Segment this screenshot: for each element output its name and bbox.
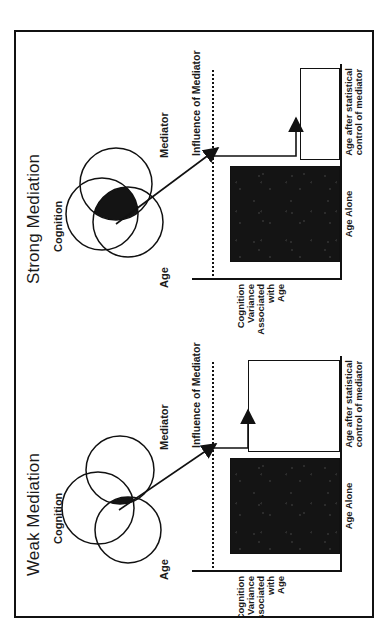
bar-caption-age-controlled-strong: Age after statistical control of mediato… xyxy=(344,60,364,164)
rotated-figure-canvas: Weak Mediation xyxy=(16,32,372,616)
bar-chart-weak: Age Alone Age after statistical control … xyxy=(192,350,360,572)
y-axis-weak xyxy=(192,570,342,572)
venn-label-age-strong: Age xyxy=(158,267,170,288)
bar-chart-strong: Age Alone Age after statistical control … xyxy=(192,58,360,280)
panel-title-strong: Strong Mediation xyxy=(24,154,44,284)
x-axis-weak xyxy=(340,356,342,572)
y-axis-strong xyxy=(192,278,342,280)
reference-line-weak xyxy=(212,362,214,572)
venn-label-age-weak: Age xyxy=(158,559,170,580)
venn-label-mediator-strong: Mediator xyxy=(158,112,170,158)
panel-title-weak: Weak Mediation xyxy=(24,453,44,576)
bar-texture xyxy=(231,167,339,261)
venn-svg-weak xyxy=(54,370,180,580)
y-axis-caption-weak: Cognition Variance Associated with Age xyxy=(236,576,286,618)
reference-line-strong xyxy=(212,70,214,280)
venn-label-cognition-strong: Cognition xyxy=(52,201,64,252)
venn-label-mediator-weak: Mediator xyxy=(158,404,170,450)
y-axis-caption-strong: Cognition Variance Associated with Age xyxy=(236,284,286,336)
bar-age-alone-weak xyxy=(230,458,340,554)
panel-strong-mediation: Strong Mediation xyxy=(16,32,372,324)
scanned-page: Weak Mediation xyxy=(0,0,392,644)
influence-of-mediator-label-weak: Influence of Mediator xyxy=(190,342,202,448)
influence-of-mediator-label-strong: Influence of Mediator xyxy=(190,50,202,156)
bar-caption-age-alone-weak: Age Alone xyxy=(344,458,354,554)
bar-age-alone-strong xyxy=(230,166,340,262)
figure-border: Weak Mediation xyxy=(14,30,374,618)
panel-weak-mediation: Weak Mediation xyxy=(16,324,372,616)
mediator-influence-arrow-strong xyxy=(208,102,304,162)
bar-caption-age-alone-strong: Age Alone xyxy=(344,166,354,262)
bar-caption-age-controlled-weak: Age after statistical control of mediato… xyxy=(344,352,364,456)
bar-age-controlled-weak xyxy=(248,360,340,452)
bar-age-controlled-strong xyxy=(300,68,340,160)
bar-texture xyxy=(231,459,339,553)
venn-svg-strong xyxy=(54,78,180,288)
venn-label-cognition-weak: Cognition xyxy=(52,493,64,544)
venn-diagram-weak: Cognition Age Mediator xyxy=(54,370,180,580)
x-axis-strong xyxy=(340,64,342,280)
venn-diagram-strong: Cognition Age Mediator xyxy=(54,78,180,288)
